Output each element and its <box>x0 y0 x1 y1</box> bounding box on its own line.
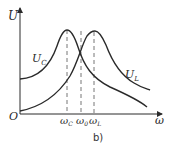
ul-label: UL <box>125 68 139 83</box>
uc-label: UC <box>32 52 47 67</box>
x-axis-label: ω <box>155 114 164 127</box>
y-axis-label: U <box>8 9 19 23</box>
figure-caption: b) <box>93 132 103 143</box>
resonance-diagram: U O ω UC UL ωC ω0 ωL b) <box>0 0 171 152</box>
omega-0-label: ω0 <box>76 115 88 127</box>
omega-c-label: ωC <box>60 115 73 127</box>
omega-l-label: ωL <box>89 115 101 127</box>
origin-label: O <box>9 110 18 123</box>
